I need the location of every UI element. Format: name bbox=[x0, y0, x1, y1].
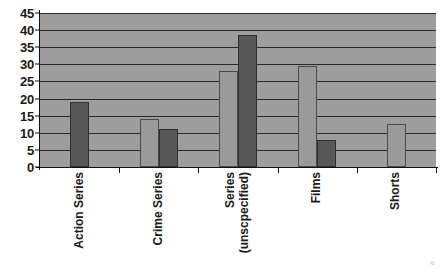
x-tick-mark bbox=[436, 168, 437, 173]
x-axis-line bbox=[36, 167, 438, 168]
y-tick-mark bbox=[35, 30, 40, 31]
x-tick-mark bbox=[357, 168, 358, 173]
y-tick-label: 45 bbox=[0, 7, 34, 20]
y-tick-label: 30 bbox=[0, 58, 34, 71]
x-tick-label-line: Films bbox=[309, 172, 323, 278]
plot-area bbox=[40, 13, 436, 167]
x-tick-label: Shorts bbox=[388, 172, 406, 278]
bar bbox=[238, 35, 257, 167]
x-axis: Action SeriesCrime SeriesSeries(unscpeci… bbox=[40, 172, 436, 278]
y-tick-mark bbox=[35, 132, 40, 133]
x-tick-label-line: (unscpecified) bbox=[237, 172, 251, 278]
x-tick-label-line: Crime Series bbox=[151, 172, 165, 278]
x-tick-mark bbox=[278, 168, 279, 173]
y-tick-mark bbox=[35, 115, 40, 116]
y-axis-line bbox=[39, 10, 40, 170]
x-tick-label: Films bbox=[309, 172, 327, 278]
x-tick-label: Series(unscpecified) bbox=[223, 172, 253, 278]
y-tick-mark bbox=[35, 167, 40, 168]
bar bbox=[70, 102, 89, 167]
y-tick-mark bbox=[35, 98, 40, 99]
y-tick-label: 40 bbox=[0, 24, 34, 37]
x-tick-mark bbox=[198, 168, 199, 173]
y-tick-mark bbox=[35, 47, 40, 48]
y-tick-label: 35 bbox=[0, 41, 34, 54]
y-tick-mark bbox=[35, 64, 40, 65]
bar bbox=[317, 140, 336, 167]
y-tick-label: 0 bbox=[0, 161, 34, 174]
x-tick-label: Crime Series bbox=[151, 172, 169, 278]
y-tick-mark bbox=[35, 13, 40, 14]
x-tick-label-line: Series bbox=[223, 172, 237, 278]
y-tick-label: 10 bbox=[0, 126, 34, 139]
scan-artifact: ≈ bbox=[430, 258, 436, 268]
bars-layer bbox=[40, 13, 436, 167]
x-tick-label: Action Series bbox=[72, 172, 90, 278]
y-tick-label: 20 bbox=[0, 92, 34, 105]
bar-chart: 454035302520151050 Action SeriesCrime Se… bbox=[0, 0, 444, 278]
bar bbox=[159, 129, 178, 167]
x-tick-label-line: Shorts bbox=[388, 172, 402, 278]
x-tick-mark bbox=[119, 168, 120, 173]
bar bbox=[387, 124, 406, 167]
y-tick-label: 5 bbox=[0, 143, 34, 156]
y-tick-label: 25 bbox=[0, 75, 34, 88]
bar bbox=[298, 66, 317, 167]
bar bbox=[140, 119, 159, 167]
y-tick-mark bbox=[35, 81, 40, 82]
bar bbox=[219, 71, 238, 167]
y-tick-label: 15 bbox=[0, 109, 34, 122]
y-tick-mark bbox=[35, 149, 40, 150]
y-axis: 454035302520151050 bbox=[0, 13, 34, 167]
x-tick-label-line: Action Series bbox=[72, 172, 86, 278]
